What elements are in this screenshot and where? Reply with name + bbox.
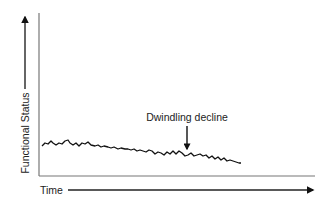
y-axis-label: Functional Status (19, 92, 31, 173)
annotation-text: Dwindling decline (146, 111, 228, 123)
chart: Functional Status Time Dwindling decline (0, 0, 332, 202)
functional-status-line (42, 140, 241, 163)
x-axis-label: Time (40, 184, 63, 196)
